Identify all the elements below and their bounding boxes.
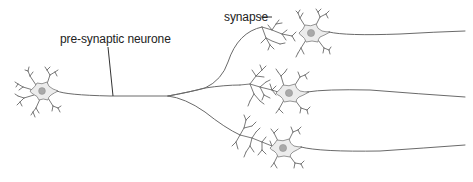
post-synaptic-neuron-bottom <box>270 127 465 168</box>
middle-nucleus <box>285 89 292 96</box>
axon-terminals-middle <box>240 65 278 106</box>
synapse-label: synapse <box>224 10 268 24</box>
pre-synaptic-nucleus <box>39 88 46 95</box>
top-nucleus <box>307 29 314 36</box>
top-axon <box>329 31 465 35</box>
axon-branch-middle <box>168 85 240 96</box>
neuron-diagram: pre-synaptic neurone synapse <box>0 0 473 182</box>
axon-branch-bottom <box>168 96 240 135</box>
bottom-axon <box>301 145 465 151</box>
axon-terminals-bottom <box>232 115 275 157</box>
post-synaptic-neuron-top <box>296 9 465 57</box>
pre-synaptic-leader-line <box>108 47 113 96</box>
middle-axon <box>307 90 465 97</box>
pre-synaptic-neurone-label: pre-synaptic neurone <box>60 32 171 46</box>
post-synaptic-neuron-middle <box>276 69 465 114</box>
bottom-nucleus <box>279 144 286 151</box>
diagram-canvas <box>0 0 473 182</box>
axon-terminals-top <box>261 20 296 50</box>
axon-branch-top <box>168 27 262 96</box>
